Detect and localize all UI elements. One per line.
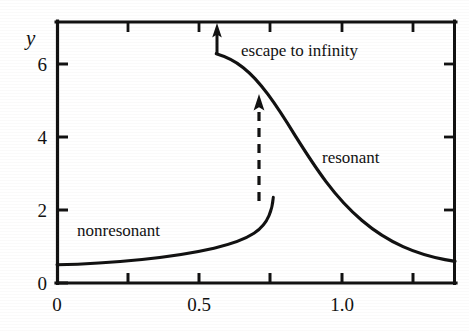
- resonant-label: resonant: [322, 148, 380, 167]
- x-tick-label-0: 0: [52, 294, 62, 315]
- y-axis-ticks-right: [444, 64, 454, 210]
- y-tick-label-4: 4: [38, 127, 48, 148]
- resonance-response-figure: 0 2 4 6 0 0.5 1.0 y escape to infinity r…: [0, 0, 469, 331]
- y-axis-label: y: [24, 26, 36, 50]
- escape-arrow: [212, 23, 222, 55]
- nonresonant-label: nonresonant: [77, 221, 160, 240]
- escape-to-infinity-label: escape to infinity: [241, 41, 359, 60]
- x-tick-label-1p0: 1.0: [330, 294, 354, 315]
- plot-canvas: 0 2 4 6 0 0.5 1.0 y escape to infinity r…: [0, 0, 469, 331]
- y-tick-label-6: 6: [38, 54, 48, 75]
- jump-arrow: [254, 94, 265, 201]
- y-tick-label-0: 0: [38, 273, 48, 294]
- y-tick-label-2: 2: [38, 200, 48, 221]
- x-tick-label-0p5: 0.5: [187, 294, 211, 315]
